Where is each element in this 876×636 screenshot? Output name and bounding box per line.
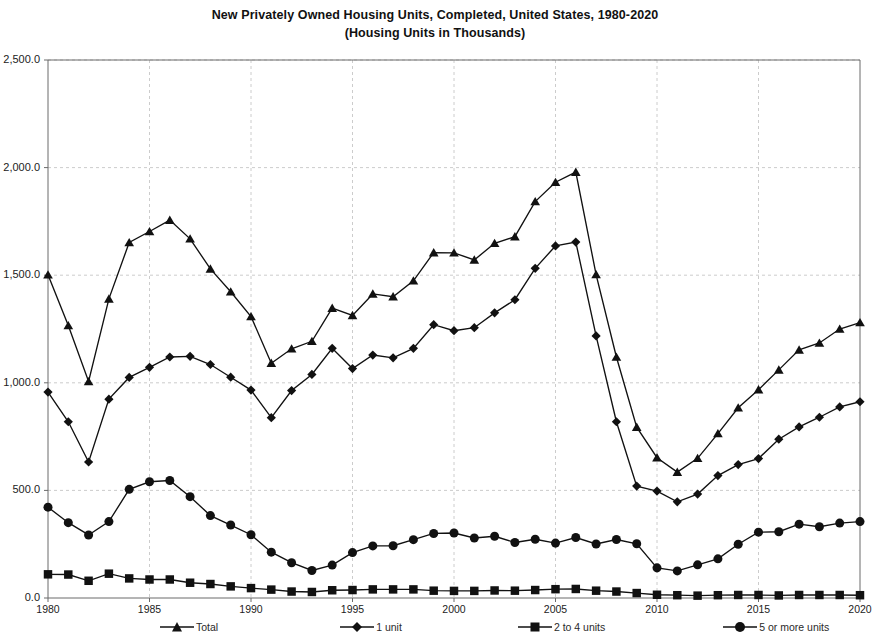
data-point-marker: [186, 492, 195, 501]
data-point-marker: [369, 585, 377, 593]
data-point-marker: [165, 352, 174, 361]
legend-item-2-to-4-units[interactable]: 2 to 4 units: [518, 617, 605, 636]
data-point-marker: [449, 326, 458, 335]
x-axis-tick-label: 2000: [429, 603, 479, 615]
data-point-marker: [713, 554, 722, 563]
data-point-marker: [246, 386, 255, 395]
y-axis-tick-label: 2,500.0: [0, 53, 40, 65]
data-point-marker: [84, 377, 94, 385]
data-point-marker: [774, 527, 783, 536]
data-point-marker: [571, 168, 581, 176]
data-point-marker: [652, 486, 661, 495]
data-point-marker: [652, 563, 661, 572]
data-point-marker: [652, 453, 662, 461]
data-point-marker: [105, 569, 113, 577]
data-point-marker: [571, 237, 580, 246]
square-marker-icon: [518, 620, 552, 634]
legend-item-total[interactable]: Total: [160, 617, 218, 636]
data-point-marker: [632, 481, 641, 490]
legend-item-1-unit[interactable]: 1 unit: [340, 617, 402, 636]
x-axis-tick-label: 2010: [632, 603, 682, 615]
y-axis-tick-label: 2,000.0: [0, 161, 40, 173]
legend-label-total: Total: [196, 621, 218, 633]
data-point-marker: [429, 586, 437, 594]
data-point-marker: [308, 588, 316, 596]
data-point-marker: [104, 294, 114, 302]
data-point-marker: [124, 238, 134, 246]
data-point-marker: [145, 363, 154, 372]
data-point-marker: [714, 591, 722, 599]
data-point-marker: [571, 533, 580, 542]
data-point-marker: [795, 591, 803, 599]
chart-legend: Total 1 unit 2 to 4 units: [48, 617, 860, 636]
data-point-marker: [815, 413, 824, 422]
data-point-marker: [64, 570, 72, 578]
data-point-marker: [348, 548, 357, 557]
y-axis-tick-label: 1,500.0: [0, 268, 40, 280]
data-point-marker: [551, 585, 559, 593]
data-point-marker: [43, 270, 53, 278]
data-point-marker: [632, 589, 640, 597]
data-point-marker: [672, 468, 682, 476]
series-total: [43, 168, 865, 476]
data-point-marker: [795, 520, 804, 529]
data-point-marker: [145, 227, 155, 235]
data-point-marker: [754, 528, 763, 537]
data-point-marker: [855, 517, 864, 526]
data-point-marker: [612, 352, 622, 360]
data-point-marker: [531, 535, 540, 544]
data-point-marker: [368, 541, 377, 550]
legend-item-5-or-more-units[interactable]: 5 or more units: [723, 617, 829, 636]
legend-label-1-unit: 1 unit: [376, 621, 402, 633]
data-point-marker: [632, 423, 642, 431]
data-point-marker: [327, 304, 337, 312]
data-point-marker: [693, 560, 702, 569]
data-point-marker: [246, 530, 255, 539]
data-point-marker: [470, 323, 479, 332]
data-point-marker: [307, 566, 316, 575]
data-point-marker: [612, 417, 621, 426]
data-point-marker: [389, 353, 398, 362]
data-point-marker: [125, 574, 133, 582]
data-point-marker: [64, 518, 73, 527]
data-point-marker: [84, 530, 93, 539]
data-point-marker: [389, 585, 397, 593]
x-axis-tick-label: 1990: [226, 603, 276, 615]
data-point-marker: [511, 586, 519, 594]
data-point-marker: [591, 270, 601, 278]
data-point-marker: [64, 417, 73, 426]
data-point-marker: [450, 587, 458, 595]
data-point-marker: [510, 232, 520, 240]
data-point-marker: [409, 535, 418, 544]
data-point-marker: [104, 517, 113, 526]
data-point-marker: [348, 586, 356, 594]
triangle-marker-icon: [160, 620, 194, 634]
data-point-marker: [43, 503, 52, 512]
data-point-marker: [592, 539, 601, 548]
data-point-marker: [592, 331, 601, 340]
data-point-marker: [145, 575, 153, 583]
data-point-marker: [43, 387, 52, 396]
data-point-marker: [226, 373, 235, 382]
x-axis-tick-label: 2005: [531, 603, 581, 615]
data-point-marker: [409, 276, 419, 284]
data-point-marker: [612, 587, 620, 595]
data-point-marker: [165, 216, 175, 224]
data-point-marker: [815, 591, 823, 599]
data-point-marker: [186, 578, 194, 586]
y-axis-tick-label: 1,000.0: [0, 376, 40, 388]
data-point-marker: [490, 532, 499, 541]
data-point-marker: [815, 522, 824, 531]
y-axis-tick-label: 0.0: [0, 591, 40, 603]
x-axis-tick-label: 2015: [734, 603, 784, 615]
data-point-marker: [673, 566, 682, 575]
data-point-marker: [206, 360, 215, 369]
data-point-marker: [206, 580, 214, 588]
data-point-marker: [835, 591, 843, 599]
data-point-marker: [693, 591, 701, 599]
data-point-marker: [653, 591, 661, 599]
data-point-marker: [429, 529, 438, 538]
x-axis-tick-label: 1985: [125, 603, 175, 615]
